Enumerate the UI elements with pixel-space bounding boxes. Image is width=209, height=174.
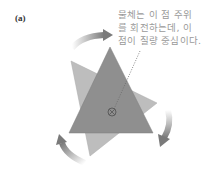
rotation-arrow-top-icon	[72, 29, 113, 48]
center-of-mass-caption: 물체는 이 점 주위 를 회전하는데, 이 점이 질량 중심이다.	[118, 8, 209, 47]
rotation-arrow-right-icon	[158, 110, 170, 147]
figure-canvas: (a) 물체는 이 점 주위 를 회전하는데, 이 점이 질량 중심이다.	[0, 0, 209, 174]
caption-line: 점이 질량 중심이다.	[118, 34, 209, 47]
rotation-arrow-bottom-left-icon	[56, 134, 85, 163]
caption-line: 물체는 이 점 주위	[118, 8, 209, 21]
caption-line: 를 회전하는데, 이	[118, 21, 209, 34]
panel-label: (a)	[15, 13, 26, 23]
